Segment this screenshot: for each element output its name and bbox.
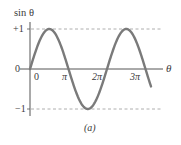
x-tick-label-zero: 0 bbox=[34, 72, 39, 82]
x-axis-label: θ bbox=[166, 63, 171, 74]
y-tick-label-zero: 0 bbox=[15, 64, 20, 74]
x-tick-label-2pi: 2π bbox=[92, 72, 102, 82]
x-tick-label-pi: π bbox=[62, 72, 67, 82]
y-tick-label-minus1: −1 bbox=[15, 104, 26, 114]
figure-caption: (a) bbox=[84, 123, 96, 133]
y-tick-label-plus1: +1 bbox=[13, 24, 24, 34]
y-axis-label: sin θ bbox=[14, 8, 34, 19]
y-axis-label-text: sin θ bbox=[14, 7, 34, 18]
x-tick-label-3pi: 3π bbox=[130, 72, 140, 82]
